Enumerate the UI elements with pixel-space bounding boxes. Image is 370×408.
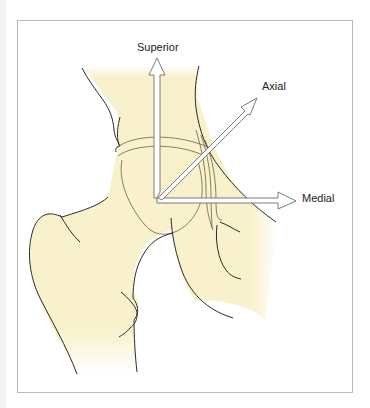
superior-label: Superior [137, 42, 179, 53]
ilium-fill [85, 66, 211, 160]
hip-diagram [0, 0, 370, 408]
medial-label: Medial [302, 193, 334, 204]
axial-label: Axial [262, 81, 286, 92]
